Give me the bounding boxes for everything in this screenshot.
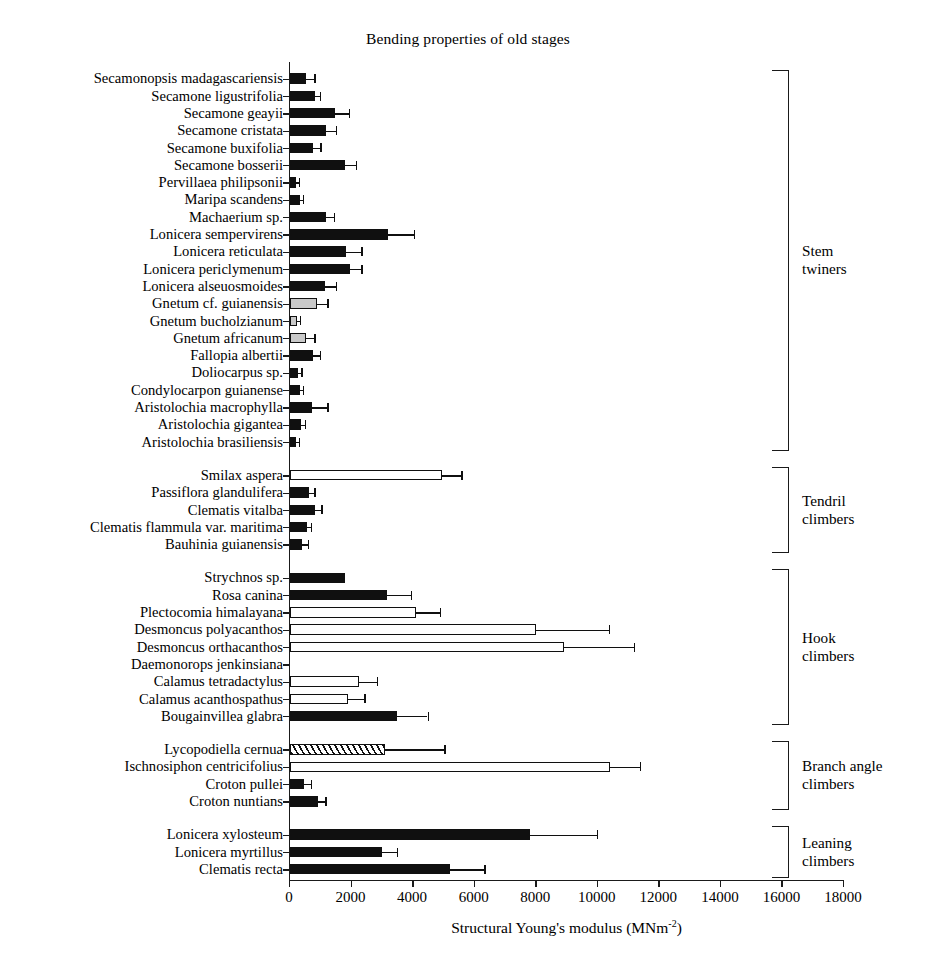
x-tick-label-10000: 10000 (562, 889, 632, 906)
bar[interactable] (290, 847, 382, 857)
bar-row: Aristolochia macrophylla (289, 399, 843, 416)
y-tick (283, 113, 289, 114)
y-tick (283, 749, 289, 750)
y-tick (283, 835, 289, 836)
error-bar-line (345, 252, 361, 253)
bar-row: Machaerium sp. (289, 208, 843, 225)
bar[interactable] (290, 91, 315, 101)
bar[interactable] (290, 744, 385, 754)
category-label: Secamone bosserii (174, 158, 283, 173)
error-bar-cap (414, 230, 415, 239)
category-label: Machaerium sp. (189, 210, 283, 225)
error-bar-cap (440, 608, 441, 617)
bar-row: Secamone geayii (289, 105, 843, 122)
error-bar-cap (303, 195, 304, 204)
y-tick (283, 131, 289, 132)
x-axis-line (289, 880, 844, 881)
bar[interactable] (290, 470, 442, 480)
bar[interactable] (290, 829, 530, 839)
bar[interactable] (290, 264, 350, 274)
bar[interactable] (290, 487, 309, 497)
y-tick (283, 801, 289, 802)
y-tick (283, 784, 289, 785)
error-bar-cap (397, 848, 398, 857)
category-label: Gnetum cf. guianensis (152, 296, 283, 311)
bar[interactable] (290, 694, 348, 704)
error-bar-cap (299, 178, 300, 187)
bar[interactable] (290, 505, 315, 515)
bar[interactable] (290, 246, 346, 256)
bar[interactable] (290, 796, 318, 806)
bar[interactable] (290, 73, 306, 83)
bar-row: Lycopodiella cernua (289, 741, 843, 758)
bar-row: Lonicera xylosteum (289, 826, 843, 843)
bar-row: Calamus acanthospathus (289, 690, 843, 707)
y-tick (283, 407, 289, 408)
category-label: Lycopodiella cernua (164, 742, 283, 757)
bar[interactable] (290, 281, 325, 291)
bar[interactable] (290, 762, 610, 772)
bar[interactable] (290, 160, 345, 170)
error-bar-cap (356, 161, 357, 170)
bar-row: Secamone cristata (289, 122, 843, 139)
bar-row: Secamone ligustrifolia (289, 87, 843, 104)
bracket-label-hook-climbers: Hook climbers (802, 629, 854, 665)
bar[interactable] (290, 607, 416, 617)
error-bar-cap (320, 92, 321, 101)
y-tick (283, 767, 289, 768)
x-tick-0 (289, 880, 290, 887)
y-tick (283, 321, 289, 322)
bar-row: Lonicera alseuosmoides (289, 278, 843, 295)
bar[interactable] (290, 333, 306, 343)
bar[interactable] (290, 298, 317, 308)
y-tick (283, 493, 289, 494)
bar[interactable] (290, 402, 312, 412)
bar-row: Passiflora glandulifera (289, 484, 843, 501)
category-label: Doliocarpus sp. (191, 365, 283, 380)
bar[interactable] (290, 779, 304, 789)
category-label: Gnetum africanum (173, 331, 283, 346)
bar[interactable] (290, 711, 397, 721)
category-label: Lonicera xylosteum (167, 827, 283, 842)
bracket-tendril-climbers (772, 467, 789, 554)
error-bar-cap (461, 471, 462, 480)
y-tick (283, 852, 289, 853)
error-bar-cap (428, 712, 429, 721)
error-bar-cap (336, 282, 337, 291)
x-tick-label-8000: 8000 (500, 889, 570, 906)
y-tick (283, 544, 289, 545)
error-bar-line (334, 113, 349, 114)
bar-row: Secamonopsis madagascariensis (289, 70, 843, 87)
bar[interactable] (290, 350, 313, 360)
bar[interactable] (290, 573, 345, 583)
bar[interactable] (290, 864, 450, 874)
bar-row: Gnetum bucholzianum (289, 312, 843, 329)
bracket-stem-twiners (772, 70, 789, 451)
error-bar-line (535, 630, 609, 631)
bar[interactable] (290, 624, 536, 634)
x-tick-8000 (535, 880, 536, 887)
category-label: Condylocarpon guianense (131, 383, 283, 398)
bar[interactable] (290, 143, 313, 153)
bar[interactable] (290, 522, 307, 532)
category-label: Pervillaea philipsonii (159, 175, 283, 190)
category-label: Rosa canina (212, 588, 283, 603)
bar[interactable] (290, 108, 335, 118)
category-label: Secamone buxifolia (167, 141, 283, 156)
y-tick (283, 630, 289, 631)
category-label: Secamone ligustrifolia (151, 89, 283, 104)
bar[interactable] (290, 642, 564, 652)
category-label: Ischnosiphon centricifolius (125, 759, 283, 774)
y-tick (283, 338, 289, 339)
bar[interactable] (290, 676, 359, 686)
bar[interactable] (290, 229, 388, 239)
bar[interactable] (290, 590, 387, 600)
error-bar-cap (320, 143, 321, 152)
y-tick (283, 234, 289, 235)
bar[interactable] (290, 212, 326, 222)
bar[interactable] (290, 125, 326, 135)
error-bar-cap (320, 351, 321, 360)
bar-row: Maripa scandens (289, 191, 843, 208)
bar-row: Aristolochia brasiliensis (289, 433, 843, 450)
bracket-hook-climbers (772, 569, 789, 725)
